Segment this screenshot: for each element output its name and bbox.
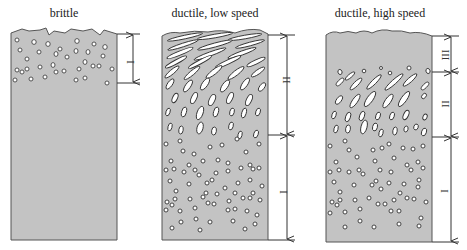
zone-label-ductile-high-III: III xyxy=(440,50,452,61)
zone-brackets-ductile-low xyxy=(268,35,295,240)
specimen-brittle xyxy=(11,28,117,240)
zone-label-brittle-I: I xyxy=(125,60,137,64)
zone-brackets-ductile-high xyxy=(432,36,459,242)
specimen-ductile-high xyxy=(326,30,432,242)
specimen-ductile-low xyxy=(162,29,268,240)
zone-label-ductile-high-II: II xyxy=(440,100,452,108)
zone-bracket-brittle-I xyxy=(117,34,140,83)
void-diagram: I xyxy=(0,0,467,250)
zone-label-ductile-high-I: I xyxy=(439,189,451,193)
zone-label-ductile-low-I: I xyxy=(278,190,290,194)
zone-label-ductile-low-II: II xyxy=(281,76,293,84)
